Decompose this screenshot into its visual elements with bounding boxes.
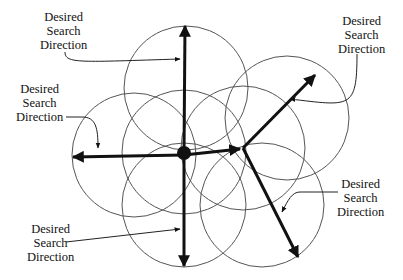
circles xyxy=(72,26,349,267)
arrow-left xyxy=(73,155,184,157)
arrow-up xyxy=(184,26,185,152)
label-line: Search xyxy=(338,28,385,42)
leader-bottom-right xyxy=(282,192,338,212)
label-top: Desired Search Direction xyxy=(40,10,87,52)
label-left: Desired Search Direction xyxy=(16,82,63,124)
leader-top xyxy=(65,52,180,61)
label-bottom-left: Desired Search Direction xyxy=(27,222,74,264)
leader-bottom-left xyxy=(66,229,180,242)
center-point xyxy=(177,146,191,160)
leader-lines xyxy=(65,52,357,242)
label-bottom-right: Desired Search Direction xyxy=(337,177,384,219)
label-line: Direction xyxy=(16,110,63,124)
label-line: Search xyxy=(40,24,87,38)
direction-arrows xyxy=(73,26,315,266)
label-line: Desired xyxy=(16,82,63,96)
label-line: Search xyxy=(27,236,74,250)
label-line: Direction xyxy=(337,205,384,219)
label-line: Search xyxy=(16,96,63,110)
circle-upper-right xyxy=(225,56,349,180)
label-line: Direction xyxy=(338,42,385,56)
label-line: Search xyxy=(337,191,384,205)
label-line: Desired xyxy=(27,222,74,236)
leader-top-right xyxy=(290,54,357,103)
label-line: Desired xyxy=(338,14,385,28)
label-line: Desired xyxy=(337,177,384,191)
search-direction-diagram: Desired Search Direction Desired Search … xyxy=(0,0,403,280)
label-line: Direction xyxy=(40,38,87,52)
label-top-right: Desired Search Direction xyxy=(338,14,385,56)
arrow-lower-right xyxy=(243,148,298,257)
label-line: Desired xyxy=(40,10,87,24)
label-line: Direction xyxy=(27,250,74,264)
